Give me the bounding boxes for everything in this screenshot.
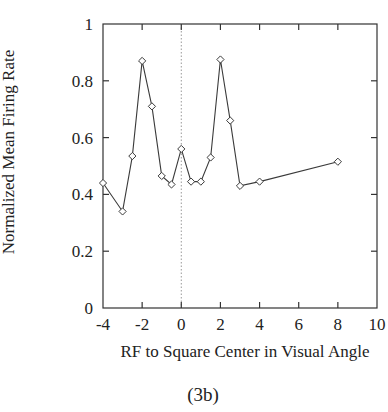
series-line: [103, 60, 338, 212]
y-tick-label: 1: [85, 15, 94, 34]
plot-border: [103, 24, 377, 308]
data-point-marker: [334, 158, 341, 165]
x-tick-label: 0: [177, 315, 186, 334]
data-point-marker: [119, 208, 126, 215]
x-tick-label: 2: [216, 315, 225, 334]
y-tick-label: 0.6: [72, 129, 93, 148]
x-tick-label: -4: [96, 315, 111, 334]
data-point-marker: [99, 179, 106, 186]
data-point-marker: [187, 178, 194, 185]
data-point-marker: [197, 178, 204, 185]
plot-frame: [103, 24, 377, 308]
data-point-marker: [236, 182, 243, 189]
data-point-marker: [178, 145, 185, 152]
data-point-marker: [217, 56, 224, 63]
data-point-marker: [227, 117, 234, 124]
x-tick-label: -2: [135, 315, 149, 334]
y-axis-label: Normalized Mean Firing Rate: [0, 50, 18, 254]
x-tick-label: 10: [369, 315, 386, 334]
y-tick-label: 0.8: [72, 72, 93, 91]
data-point-marker: [207, 154, 214, 161]
y-axis-ticks: 00.20.40.60.81: [72, 15, 377, 318]
data-point-marker: [129, 152, 136, 159]
y-tick-label: 0: [85, 299, 94, 318]
data-point-marker: [256, 178, 263, 185]
y-tick-label: 0.4: [72, 185, 94, 204]
x-axis-label: RF to Square Center in Visual Angle: [121, 342, 370, 361]
x-tick-label: 4: [255, 315, 264, 334]
data-point-marker: [139, 57, 146, 64]
x-tick-label: 8: [334, 315, 343, 334]
figure-caption: (3b): [187, 384, 219, 406]
data-point-marker: [148, 103, 155, 110]
chart: -4-20246810 00.20.40.60.81 RF to Square …: [0, 0, 388, 412]
x-axis-ticks: -4-20246810: [96, 24, 386, 334]
series-group: [99, 56, 341, 215]
y-tick-label: 0.2: [72, 242, 93, 261]
x-tick-label: 6: [294, 315, 303, 334]
